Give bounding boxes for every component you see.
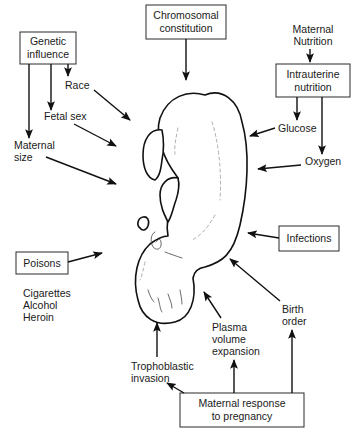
fetus-hand bbox=[138, 217, 149, 230]
svg-text:Trophoblastic: Trophoblastic bbox=[131, 360, 194, 372]
infections-box: Infections bbox=[279, 226, 339, 251]
svg-text:order: order bbox=[282, 315, 307, 327]
maternal-size-label: Maternal size bbox=[14, 139, 55, 163]
svg-text:nutrition: nutrition bbox=[294, 81, 332, 93]
svg-text:expansion: expansion bbox=[212, 345, 260, 357]
svg-text:to pregnancy: to pregnancy bbox=[212, 410, 273, 422]
svg-text:volume: volume bbox=[212, 333, 246, 345]
svg-text:Nutrition: Nutrition bbox=[293, 35, 332, 47]
arrow-response-to-trophoblastic bbox=[167, 383, 184, 393]
birth-order-label: Birth order bbox=[282, 303, 307, 327]
arrow-fetal-sex-to-fetus bbox=[74, 124, 116, 146]
svg-text:Maternal response: Maternal response bbox=[199, 397, 286, 409]
fetal-growth-diagram: Genetic influence Chromosomal constituti… bbox=[0, 0, 354, 438]
arrow-birth-order-to-fetus bbox=[230, 259, 280, 301]
svg-text:Infections: Infections bbox=[287, 232, 332, 244]
svg-text:Maternal: Maternal bbox=[293, 23, 334, 35]
arrow-poisons-to-fetus bbox=[68, 253, 102, 262]
svg-text:Heroin: Heroin bbox=[23, 311, 54, 323]
genetic-influence-box: Genetic influence bbox=[20, 32, 76, 64]
maternal-response-box: Maternal response to pregnancy bbox=[180, 393, 304, 427]
arrow-maternal-size-to-fetus bbox=[46, 157, 116, 184]
chromosomal-constitution-box: Chromosomal constitution bbox=[146, 5, 226, 39]
arrow-glucose-to-fetus bbox=[250, 128, 275, 136]
arrow-plasma-to-fetus bbox=[204, 292, 221, 318]
plasma-volume-label: Plasma volume expansion bbox=[212, 321, 260, 357]
arrow-infections-to-fetus bbox=[248, 233, 279, 238]
glucose-label: Glucose bbox=[278, 122, 317, 134]
svg-text:constitution: constitution bbox=[159, 22, 212, 34]
fetus-body bbox=[135, 93, 247, 323]
svg-text:influence: influence bbox=[27, 48, 69, 60]
poisons-box: Poisons bbox=[16, 252, 68, 274]
svg-text:size: size bbox=[14, 151, 33, 163]
arrow-race-to-fetus bbox=[94, 90, 130, 120]
svg-text:Chromosomal: Chromosomal bbox=[153, 9, 218, 21]
oxygen-label: Oxygen bbox=[305, 155, 341, 167]
poisons-list-label: Cigarettes Alcohol Heroin bbox=[23, 287, 71, 323]
intrauterine-nutrition-box: Intrauterine nutrition bbox=[276, 64, 350, 97]
fetal-sex-label: Fetal sex bbox=[44, 110, 87, 122]
svg-text:Birth: Birth bbox=[282, 303, 304, 315]
svg-text:Plasma: Plasma bbox=[212, 321, 247, 333]
svg-text:invasion: invasion bbox=[131, 372, 170, 384]
svg-text:Maternal: Maternal bbox=[14, 139, 55, 151]
race-label: Race bbox=[65, 79, 90, 91]
arrow-oxygen-to-fetus bbox=[258, 165, 301, 169]
fetus-illustration bbox=[135, 93, 247, 323]
svg-text:Alcohol: Alcohol bbox=[23, 299, 57, 311]
trophoblastic-invasion-label: Trophoblastic invasion bbox=[131, 360, 194, 384]
svg-text:Poisons: Poisons bbox=[23, 257, 60, 269]
svg-text:Cigarettes: Cigarettes bbox=[23, 287, 71, 299]
svg-text:Genetic: Genetic bbox=[30, 35, 66, 47]
maternal-nutrition-label: Maternal Nutrition bbox=[293, 23, 334, 47]
svg-text:Intrauterine: Intrauterine bbox=[286, 68, 339, 80]
fetus-leg bbox=[143, 130, 164, 180]
